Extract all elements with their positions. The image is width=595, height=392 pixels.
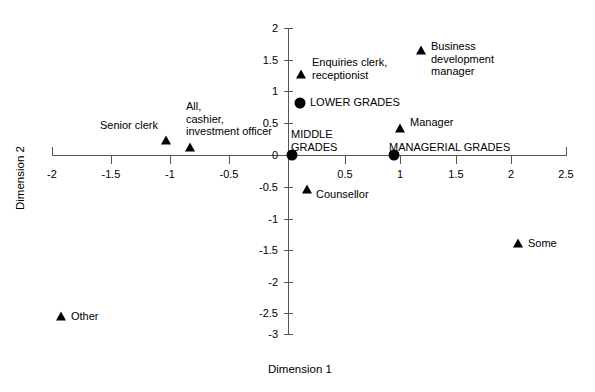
- x-tick-label-2: 2: [508, 169, 514, 180]
- x-tick-label--0p5: -0.5: [220, 169, 239, 180]
- point-label-managerial-grades: MANAGERIAL GRADES: [389, 141, 510, 154]
- y-axis-title: Dimension 2: [14, 146, 26, 210]
- y-tick-1: [284, 91, 293, 92]
- x-axis-title: Dimension 1: [268, 363, 332, 375]
- marker-senior-clerk: [161, 136, 171, 145]
- x-tick-2p5: [566, 147, 567, 156]
- x-tick-label--1: -1: [165, 169, 175, 180]
- point-label-manager: Manager: [410, 116, 453, 129]
- x-tick--1: [170, 155, 171, 164]
- x-tick--1p5: [111, 155, 112, 164]
- x-tick--0p5: [229, 155, 230, 164]
- marker-other: [56, 312, 66, 321]
- y-tick-label-0: 0: [252, 150, 278, 161]
- y-tick--1p5: [284, 250, 293, 251]
- y-tick-1p5: [284, 60, 293, 61]
- point-label-all-cashier-investment-officer: All, cashier, investment officer: [186, 100, 272, 138]
- marker-lower-grades: [295, 98, 306, 109]
- point-label-enquiries-clerk: Enquiries clerk, receptionist: [312, 56, 387, 81]
- x-tick-label--1p5: -1.5: [102, 169, 121, 180]
- point-label-counsellor: Counsellor: [316, 188, 369, 201]
- y-tick-label--2p5: -2.5: [250, 308, 278, 319]
- marker-all-cashier-investment-officer: [185, 143, 195, 152]
- x-tick--2: [52, 147, 53, 156]
- x-tick-0p5: [345, 155, 346, 164]
- y-tick--1: [284, 219, 293, 220]
- y-axis-line: [288, 28, 289, 334]
- y-tick-label--1: -1: [250, 214, 278, 225]
- x-tick-label--2: -2: [47, 169, 57, 180]
- x-tick-1p5: [456, 155, 457, 164]
- y-tick-label--3: -3: [250, 329, 278, 340]
- x-tick-label-1: 1: [397, 169, 403, 180]
- y-tick-label--0p5: -0.5: [250, 182, 278, 193]
- x-tick-label-2p5: 2.5: [558, 169, 573, 180]
- marker-counsellor: [302, 185, 312, 194]
- point-label-other: Other: [71, 310, 99, 323]
- point-label-lower-grades: LOWER GRADES: [310, 96, 400, 109]
- y-tick--3: [284, 334, 293, 335]
- y-tick-0p5: [284, 123, 293, 124]
- y-tick-label--2: -2: [250, 277, 278, 288]
- y-tick--0p5: [284, 187, 293, 188]
- y-tick--2: [284, 282, 293, 283]
- x-tick-label-0p5: 0.5: [337, 169, 352, 180]
- marker-manager: [395, 124, 405, 133]
- point-label-middle-grades: MIDDLE GRADES: [291, 128, 337, 153]
- y-tick-label--1p5: -1.5: [250, 245, 278, 256]
- marker-some: [513, 239, 523, 248]
- point-label-business-development-manager: Business development manager: [431, 40, 494, 78]
- x-tick-label-1p5: 1.5: [448, 169, 463, 180]
- marker-business-development-manager: [416, 46, 426, 55]
- scatter-plot: -2 -1.5 -1 -0.5 0.5 1 1.5 2 2.5 2 1.5 1 …: [0, 0, 595, 392]
- x-axis-line: [52, 155, 566, 156]
- point-label-some: Some: [528, 237, 557, 250]
- x-tick-2: [511, 155, 512, 164]
- marker-enquiries-clerk: [296, 70, 306, 79]
- y-tick-label-1: 1: [252, 86, 278, 97]
- y-tick-label-2: 2: [252, 23, 278, 34]
- y-tick-label-1p5: 1.5: [252, 55, 278, 66]
- point-label-senior-clerk: Senior clerk: [100, 119, 158, 132]
- y-tick-2: [284, 28, 293, 29]
- x-tick-1: [400, 155, 401, 164]
- y-tick--2p5: [284, 313, 293, 314]
